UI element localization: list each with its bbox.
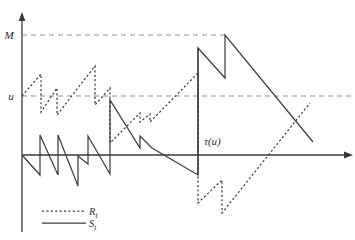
- x-axis: [22, 152, 353, 159]
- reference-levels: [22, 35, 352, 96]
- y-axis-arrow-icon: [19, 12, 26, 21]
- ruin-theory-figure: M u τ(u) Rt St: [0, 0, 355, 240]
- x-axis-arrow-icon: [344, 152, 353, 159]
- series-path-R: [22, 66, 310, 213]
- legend-label-S: St: [89, 218, 97, 232]
- legend: Rt St: [42, 206, 98, 232]
- axis-label-M: M: [3, 29, 14, 41]
- axis-label-u: u: [8, 90, 14, 102]
- series-path-S: [22, 35, 313, 186]
- legend-label-R-subscript: t: [95, 211, 98, 220]
- legend-label-S-subscript: t: [94, 223, 97, 232]
- tau-label: τ(u): [204, 135, 221, 148]
- y-axis: [19, 12, 26, 232]
